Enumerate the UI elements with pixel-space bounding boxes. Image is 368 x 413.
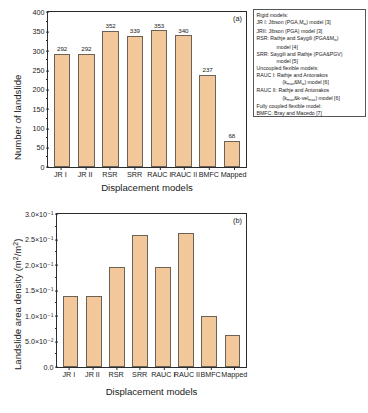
- y-tick-minor: [46, 40, 48, 41]
- legend-line: BMFC: Bray and Macedo [7]: [257, 110, 363, 117]
- bar: [63, 296, 79, 367]
- y-tick-label: 1.5×10⁻¹: [25, 287, 57, 294]
- bar: [54, 54, 70, 167]
- bar-slot: 353: [147, 12, 171, 167]
- y-tick-minor: [46, 156, 48, 157]
- figure-landslide-displacement-models: 29229235233935334023768 (a) 050100150200…: [0, 0, 368, 413]
- panel-a-y-axis-title: Number of landslide: [12, 75, 23, 160]
- y-tick-label: 150: [33, 105, 49, 112]
- legend-line: (kmax&k-velmax) model [6]: [257, 95, 363, 104]
- bar: [78, 54, 94, 167]
- panel-b: (b) 0.05.0×10⁻²1.0×10⁻¹1.5×10⁻¹2.0×10⁻¹2…: [0, 200, 368, 413]
- x-tick-label: Mapped: [221, 367, 247, 378]
- y-tick-label: 5.0×10⁻²: [25, 338, 57, 345]
- bar-slot: 292: [74, 12, 98, 167]
- legend-line: (kmax&Mw) model [6]: [257, 79, 363, 88]
- bar-slot: [221, 214, 244, 367]
- legend-line: RAUC II: Rathje and Antonakos: [257, 87, 363, 94]
- panel-b-y-axis-title: Landslide area density (m2/m2): [12, 239, 23, 370]
- y-tick-label: 3.0×10⁻¹: [25, 210, 57, 217]
- legend-line: RAUC I: Rathje and Antonakos: [257, 72, 363, 79]
- legend-lines: Rigid models:JR I: Jibson (PGA,Mw) model…: [257, 12, 363, 117]
- bar-slot: [82, 214, 105, 367]
- y-tick-minor: [55, 226, 57, 227]
- bar-slot: [152, 214, 175, 367]
- panel-a-x-axis-title: Displacement models: [47, 182, 247, 193]
- panel-b-bars: [57, 214, 246, 367]
- x-tick-label: RSR: [102, 167, 117, 178]
- bar: [201, 316, 217, 367]
- x-tick-label: JR I: [62, 367, 75, 378]
- legend-box: Rigid models:JR I: Jibson (PGA,Mw) model…: [253, 9, 366, 117]
- bar-slot: [198, 214, 221, 367]
- panel-b-plot-area: (b) 0.05.0×10⁻²1.0×10⁻¹1.5×10⁻¹2.0×10⁻¹2…: [56, 213, 247, 368]
- y-tick-label: 300: [33, 47, 49, 54]
- legend-line: model [4]: [257, 44, 363, 51]
- panel-b-x-axis-title: Displacement models: [56, 386, 247, 397]
- x-tick-label: Mapped: [221, 167, 247, 178]
- y-tick-label: 2.0×10⁻¹: [25, 261, 57, 268]
- bar-slot: [175, 214, 198, 367]
- y-tick-label: 0.0: [44, 363, 58, 370]
- panel-a-plot-area: 29229235233935334023768 (a) 050100150200…: [47, 11, 247, 168]
- x-tick-label: BMFC: [200, 367, 220, 378]
- y-tick-minor: [46, 21, 48, 22]
- bar-slot: 292: [50, 12, 74, 167]
- y-tick-minor: [55, 328, 57, 329]
- y-tick-label: 50: [37, 144, 49, 151]
- x-tick-label: JR II: [78, 167, 93, 178]
- legend-line: SRR: Saygili and Rathje (PGA&PGV): [257, 51, 363, 58]
- x-tick-label: RAUC I: [147, 167, 171, 178]
- bar-slot: [128, 214, 151, 367]
- y-tick-label: 350: [33, 28, 49, 35]
- legend-line: Fully coupled flexible model:: [257, 103, 363, 110]
- y-tick-label: 200: [33, 86, 49, 93]
- bar: [225, 335, 241, 367]
- x-tick-label: JR I: [54, 167, 67, 178]
- y-tick-label: 250: [33, 67, 49, 74]
- bar-slot: 339: [123, 12, 147, 167]
- bar-value-label: 292: [50, 46, 74, 52]
- bar-value-label: 352: [99, 23, 123, 29]
- y-tick-minor: [46, 137, 48, 138]
- y-tick-minor: [46, 118, 48, 119]
- bar-value-label: 353: [147, 23, 171, 29]
- bar: [199, 75, 215, 167]
- bar-slot: 340: [171, 12, 195, 167]
- legend-line: Rigid models:: [257, 12, 363, 19]
- y-tick-minor: [55, 302, 57, 303]
- y-tick-minor: [55, 277, 57, 278]
- bar: [178, 233, 194, 367]
- bar-slot: 352: [99, 12, 123, 167]
- x-tick-label: RAUC II: [174, 367, 200, 378]
- x-tick-label: RSR: [108, 367, 123, 378]
- y-tick-label: 1.0×10⁻¹: [25, 312, 57, 319]
- y-tick-label: 400: [33, 8, 49, 15]
- bar: [132, 235, 148, 367]
- legend-line: Uncoupled flexible models:: [257, 65, 363, 72]
- x-tick-label: RAUC I: [151, 367, 175, 378]
- bar-slot: 237: [196, 12, 220, 167]
- y-tick-minor: [46, 59, 48, 60]
- panel-a-tag: (a): [233, 14, 242, 23]
- x-tick-label: SRR: [132, 367, 147, 378]
- bar-value-label: 339: [123, 28, 147, 34]
- bar: [155, 267, 171, 367]
- panel-a-bars: 29229235233935334023768: [48, 12, 246, 167]
- y-tick-label: 2.5×10⁻¹: [25, 236, 57, 243]
- bar: [109, 267, 125, 367]
- legend-line: JR I: Jibson (PGA,Mw) model [3]: [257, 19, 363, 28]
- bar-value-label: 68: [220, 133, 244, 139]
- x-tick-label: SRR: [127, 167, 142, 178]
- x-tick-label: JR II: [85, 367, 100, 378]
- y-tick-minor: [55, 353, 57, 354]
- y-tick-label: 0: [41, 163, 49, 170]
- y-tick-minor: [46, 98, 48, 99]
- bar-slot: [59, 214, 82, 367]
- legend-line: RSR: Rathje and Saygili (PGA&Mw): [257, 35, 363, 44]
- legend-line: model [5]: [257, 58, 363, 65]
- bar-value-label: 292: [74, 46, 98, 52]
- bar-slot: 68: [220, 12, 244, 167]
- y-tick-minor: [46, 79, 48, 80]
- bar: [86, 296, 102, 367]
